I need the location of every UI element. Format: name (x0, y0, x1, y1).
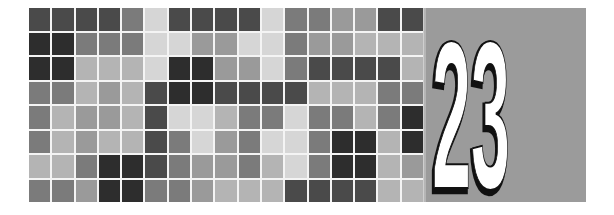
mosaic-cell (215, 82, 236, 105)
mosaic-cell (169, 131, 190, 154)
mosaic-cell (355, 8, 376, 31)
mosaic-cell (169, 180, 190, 203)
mosaic-cell (192, 82, 213, 105)
mosaic-cell (145, 131, 166, 154)
mosaic-cell (239, 131, 260, 154)
mosaic-cell (378, 106, 399, 129)
mosaic-cell (332, 8, 353, 31)
mosaic-cell (52, 33, 73, 56)
mosaic-cell (309, 180, 330, 203)
mosaic-cell (239, 33, 260, 56)
mosaic-cell (355, 33, 376, 56)
mosaic-cell (145, 8, 166, 31)
mosaic-cell (262, 8, 283, 31)
mosaic-cell (378, 131, 399, 154)
mosaic-cell (192, 155, 213, 178)
mosaic-cell (122, 131, 143, 154)
mosaic-cell (355, 57, 376, 80)
mosaic-cell (192, 8, 213, 31)
mosaic-cell (145, 57, 166, 80)
mosaic-cell (285, 33, 306, 56)
mosaic-cell (285, 57, 306, 80)
mosaic-cell (76, 33, 97, 56)
mosaic-cell (29, 106, 50, 129)
mosaic-cell (122, 180, 143, 203)
chapter-number-panel: 23 23 (424, 8, 586, 202)
mosaic-cell (29, 155, 50, 178)
mosaic-cell (52, 180, 73, 203)
mosaic-cell (378, 155, 399, 178)
mosaic-cell (285, 131, 306, 154)
mosaic-cell (402, 33, 423, 56)
mosaic-cell (402, 82, 423, 105)
mosaic-cell (239, 57, 260, 80)
mosaic-cell (52, 57, 73, 80)
mosaic-cell (285, 82, 306, 105)
mosaic-cell (309, 155, 330, 178)
mosaic-cell (52, 8, 73, 31)
mosaic-cell (76, 57, 97, 80)
mosaic-cell (169, 57, 190, 80)
mosaic-cell (52, 155, 73, 178)
mosaic-cell (332, 131, 353, 154)
mosaic-cell (29, 33, 50, 56)
mosaic-cell (192, 33, 213, 56)
mosaic-cell (145, 180, 166, 203)
mosaic-cell (169, 155, 190, 178)
mosaic-cell (169, 33, 190, 56)
mosaic-cell (122, 82, 143, 105)
mosaic-cell (262, 82, 283, 105)
mosaic-cell (99, 131, 120, 154)
mosaic-cell (52, 82, 73, 105)
mosaic-cell (99, 155, 120, 178)
chapter-number-graphic: 23 23 (426, 8, 586, 202)
mosaic-cell (239, 8, 260, 31)
mosaic-cell (169, 106, 190, 129)
mosaic-cell (309, 33, 330, 56)
mosaic-cell (378, 33, 399, 56)
mosaic-cell (122, 106, 143, 129)
mosaic-cell (309, 57, 330, 80)
mosaic-cell (192, 106, 213, 129)
mosaic-cell (402, 155, 423, 178)
mosaic-cell (29, 180, 50, 203)
mosaic-cell (355, 82, 376, 105)
mosaic-cell (402, 8, 423, 31)
mosaic-cell (99, 180, 120, 203)
mosaic-cell (239, 155, 260, 178)
mosaic-cell (29, 82, 50, 105)
mosaic-cell (309, 131, 330, 154)
mosaic-cell (378, 8, 399, 31)
mosaic-cell (145, 33, 166, 56)
mosaic-cell (52, 106, 73, 129)
mosaic-cell (285, 180, 306, 203)
mosaic-cell (309, 82, 330, 105)
mosaic-cell (285, 8, 306, 31)
mosaic-cell (262, 155, 283, 178)
mosaic-cell (355, 155, 376, 178)
chapter-number: 23 (432, 8, 510, 202)
mosaic-cell (145, 82, 166, 105)
mosaic-cell (76, 155, 97, 178)
mosaic-cell (262, 106, 283, 129)
mosaic-cell (99, 8, 120, 31)
mosaic-cell (215, 33, 236, 56)
mosaic-cell (29, 57, 50, 80)
mosaic-cell (169, 82, 190, 105)
mosaic-cell (355, 180, 376, 203)
mosaic-cell (192, 180, 213, 203)
mosaic-cell (215, 131, 236, 154)
mosaic-cell (355, 131, 376, 154)
mosaic-cell (215, 57, 236, 80)
mosaic-cell (262, 180, 283, 203)
mosaic-grid (29, 8, 424, 202)
mosaic-cell (76, 8, 97, 31)
mosaic-cell (122, 155, 143, 178)
mosaic-cell (192, 131, 213, 154)
mosaic-cell (262, 33, 283, 56)
mosaic-cell (99, 82, 120, 105)
mosaic-cell (145, 106, 166, 129)
mosaic-cell (402, 106, 423, 129)
mosaic-cell (332, 155, 353, 178)
mosaic-cell (402, 57, 423, 80)
